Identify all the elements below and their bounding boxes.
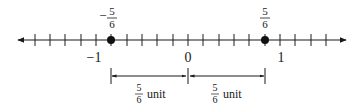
svg-text:6: 6 [109,18,115,30]
svg-text:5: 5 [137,82,142,93]
svg-text:−: − [99,8,106,23]
point-five-sixths [261,36,269,44]
svg-text:5: 5 [213,82,218,93]
svg-text:6: 6 [262,18,268,30]
number-line-diagram: − 5 6 5 6 −1 0 1 5 6 unit 5 6 unit [0,0,358,106]
svg-text:6: 6 [213,94,218,105]
label-one: 1 [278,50,285,65]
label-zero: 0 [185,50,192,65]
label-negative-five-sixths: − 5 6 [99,5,117,30]
svg-text:5: 5 [109,5,115,17]
distance-brackets [111,68,265,84]
label-minus-one: −1 [87,50,102,65]
svg-text:5: 5 [262,5,268,17]
svg-text:unit: unit [147,87,166,101]
label-five-sixths: 5 6 [260,5,270,30]
svg-text:6: 6 [137,94,142,105]
distance-label-left: 5 6 unit [135,82,166,105]
point-negative-five-sixths [107,36,115,44]
svg-text:unit: unit [223,87,242,101]
distance-label-right: 5 6 unit [211,82,242,105]
